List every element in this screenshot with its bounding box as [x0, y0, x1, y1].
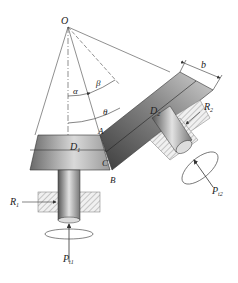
- pt1-label: Pt1: [62, 253, 74, 265]
- r2-label: R2: [203, 101, 213, 113]
- point-a-label: A: [97, 126, 104, 136]
- point-b-label: B: [110, 175, 116, 185]
- shaft-1: [22, 170, 100, 262]
- angle-alpha-label: α: [73, 86, 78, 96]
- face-width-label: b: [201, 59, 206, 70]
- point-c-label: C: [102, 158, 109, 168]
- angle-theta-label: θ: [103, 107, 108, 117]
- r1-label: R1: [9, 196, 19, 208]
- shaft-2: [150, 100, 223, 190]
- bevel-gear-diagram: O α β θ A B C D1 D2 b R1 R2 Pt1 Pt2: [0, 0, 238, 283]
- apex-label: O: [61, 15, 68, 26]
- pt2-label: Pt2: [211, 185, 223, 197]
- angle-beta-label: β: [95, 78, 101, 88]
